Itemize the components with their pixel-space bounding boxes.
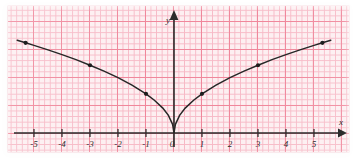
y-axis-arrow-icon <box>170 10 179 20</box>
xtick-label-3: 3 <box>256 140 261 149</box>
data-point <box>256 63 260 67</box>
y-axis <box>170 10 179 147</box>
xtick-label-neg5: -5 <box>30 140 38 149</box>
data-point <box>144 92 148 96</box>
data-point <box>24 41 28 45</box>
y-axis-label: y <box>166 16 170 25</box>
xtick-label-5: 5 <box>312 140 317 149</box>
graph-figure: x y -5 -4 -3 -2 -1 0 1 2 3 4 5 <box>0 0 355 160</box>
data-point <box>320 41 324 45</box>
xtick-label-2: 2 <box>228 140 233 149</box>
xtick-label-neg2: -2 <box>114 140 122 149</box>
xtick-label-neg1: -1 <box>142 140 150 149</box>
x-axis-arrow-icon <box>338 129 347 138</box>
xtick-label-neg4: -4 <box>58 140 66 149</box>
x-axis <box>14 129 347 138</box>
xtick-label-zero: 0 <box>170 140 175 149</box>
plot-area <box>0 0 355 160</box>
xtick-label-4: 4 <box>284 140 289 149</box>
xtick-label-1: 1 <box>200 140 205 149</box>
x-axis-label: x <box>339 118 343 127</box>
data-point <box>200 92 204 96</box>
data-point <box>88 63 92 67</box>
xtick-label-neg3: -3 <box>86 140 94 149</box>
